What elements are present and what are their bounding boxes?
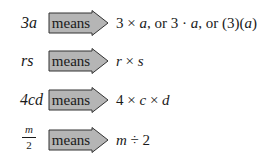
definition-row-m-over-2: m 2 means m ÷ 2 <box>0 127 269 153</box>
meaning-m-over-2: m ÷ 2 <box>116 127 150 153</box>
fraction-m-over-2: m 2 <box>22 123 36 152</box>
fraction-denominator: 2 <box>22 138 36 152</box>
means-arrow: means <box>48 127 110 153</box>
means-arrow: means <box>48 87 110 113</box>
means-label: means <box>51 131 91 149</box>
definition-row-4cd: 4cd means 4 × c × d <box>0 87 269 113</box>
expression-3a: 3a <box>21 10 37 36</box>
means-label: means <box>51 14 91 32</box>
meaning-3a: 3 × a, or 3 · a, or (3)(a) <box>116 10 257 36</box>
fraction-numerator: m <box>22 123 36 138</box>
definition-row-3a: 3a means 3 × a, or 3 · a, or (3)(a) <box>0 10 269 36</box>
means-label: means <box>51 52 91 70</box>
means-arrow: means <box>48 10 110 36</box>
means-arrow: means <box>48 48 110 74</box>
expression-4cd: 4cd <box>20 87 43 113</box>
meaning-rs: r × s <box>116 48 144 74</box>
expression-rs: rs <box>21 48 33 74</box>
meaning-4cd: 4 × c × d <box>116 87 170 113</box>
means-label: means <box>51 91 91 109</box>
definition-row-rs: rs means r × s <box>0 48 269 74</box>
